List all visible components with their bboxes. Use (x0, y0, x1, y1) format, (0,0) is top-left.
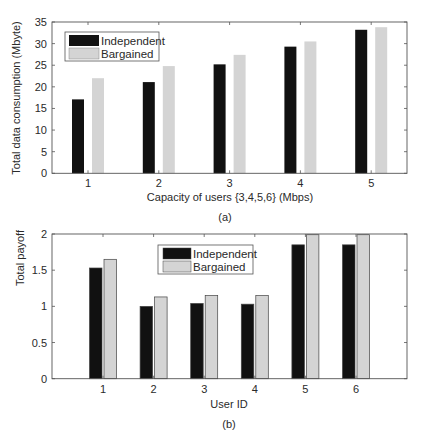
legend-swatch-independent (69, 35, 99, 46)
chart-b-legend: Independent Bargained (158, 245, 258, 274)
x-tick-label: 4 (252, 383, 258, 395)
x-tick-label: 6 (353, 383, 359, 395)
chart-a: 05101520253035 12345 Total data consumpt… (10, 16, 407, 223)
chart-a-x-axis-label: Capacity of users {3,4,5,6} (Mbps) (147, 191, 313, 203)
y-tick-label: 20 (35, 81, 47, 93)
chart-a-panel-label: (a) (218, 211, 231, 223)
y-tick-label: 35 (35, 16, 47, 28)
bar-independent-5 (355, 30, 367, 174)
legend-label-independent: Independent (101, 35, 166, 47)
bar-independent-6 (343, 245, 356, 379)
x-tick-label: 2 (156, 177, 162, 189)
bar-bargained-2 (155, 297, 168, 379)
bar-independent-1 (90, 268, 103, 379)
chart-b: 00.511.52 123456 Total payoff User ID (b… (14, 228, 407, 430)
bar-independent-3 (214, 64, 226, 173)
bar-independent-4 (241, 304, 254, 379)
chart-a-y-axis-label: Total data consumption (Mbyte) (10, 21, 22, 174)
bar-bargained-3 (205, 296, 218, 379)
y-tick-label: 5 (41, 146, 47, 158)
bar-independent-2 (140, 306, 153, 378)
legend-label-independent: Independent (193, 248, 258, 260)
legend-label-bargained: Bargained (193, 261, 245, 273)
bar-bargained-5 (375, 27, 387, 173)
y-tick-label: 25 (35, 59, 47, 71)
bar-bargained-2 (163, 66, 175, 173)
x-tick-label: 5 (368, 177, 374, 189)
legend-label-bargained: Bargained (101, 48, 153, 60)
bar-independent-1 (72, 99, 84, 173)
bar-bargained-5 (306, 235, 319, 379)
chart-b-panel-label: (b) (222, 418, 235, 430)
legend-swatch-bargained (69, 48, 99, 59)
y-tick-label: 10 (35, 124, 47, 136)
bar-bargained-3 (234, 55, 246, 173)
chart-a-legend: Independent Bargained (65, 32, 166, 61)
legend-swatch-bargained (163, 261, 191, 272)
chart-b-y-axis-label: Total payoff (14, 229, 26, 286)
y-tick-label: 15 (35, 102, 47, 114)
x-tick-label: 3 (227, 177, 233, 189)
y-tick-label: 0 (41, 373, 47, 385)
chart-b-x-axis-label: User ID (210, 398, 247, 410)
legend-swatch-independent (163, 248, 191, 259)
y-tick-label: 1.5 (32, 264, 47, 276)
figure: 05101520253035 12345 Total data consumpt… (0, 0, 424, 441)
bar-bargained-6 (357, 235, 370, 379)
x-tick-label: 2 (151, 383, 157, 395)
bar-independent-3 (191, 303, 204, 378)
y-tick-label: 2 (41, 228, 47, 240)
x-tick-label: 1 (85, 177, 91, 189)
bar-bargained-4 (304, 41, 316, 173)
y-tick-label: 0 (41, 167, 47, 179)
bar-bargained-1 (104, 259, 117, 378)
x-tick-label: 1 (100, 383, 106, 395)
y-tick-label: 0.5 (32, 337, 47, 349)
x-tick-label: 3 (201, 383, 207, 395)
y-tick-label: 1 (41, 300, 47, 312)
x-tick-label: 4 (297, 177, 303, 189)
x-tick-label: 5 (302, 383, 308, 395)
bar-bargained-1 (92, 78, 104, 173)
bar-independent-2 (143, 82, 155, 173)
bar-independent-4 (284, 47, 296, 174)
bar-independent-5 (292, 245, 305, 379)
bar-bargained-4 (256, 296, 268, 379)
y-tick-label: 30 (35, 38, 47, 50)
